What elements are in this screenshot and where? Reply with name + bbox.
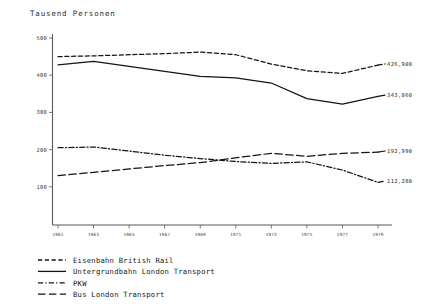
x-axis-tick-label: 1969: [195, 232, 206, 237]
series-end-leader: [378, 64, 385, 65]
series-end-value-label: 343,060: [387, 92, 413, 98]
y-axis-tick-group: 500400300200100: [36, 35, 52, 190]
y-axis-tick-label: 500: [36, 35, 47, 41]
series-end-value-label: 112,280: [387, 178, 413, 184]
line-chart: Tausend Personen 500400300200100 1961196…: [0, 0, 438, 308]
y-axis-tick-label: 300: [36, 109, 47, 115]
legend-item-label: PKW: [73, 279, 87, 288]
x-axis-tick-label: 1961: [52, 232, 63, 237]
series-group: [58, 52, 385, 182]
y-axis-tick-label: 200: [36, 147, 47, 153]
series-end-leader: [378, 181, 385, 182]
x-axis-tick-label: 1965: [124, 232, 135, 237]
x-axis-tick-label: 1971: [230, 232, 241, 237]
legend-item-label: Bus London Transport: [73, 290, 165, 299]
series-end-value-label: 426,900: [387, 61, 413, 67]
y-axis-tick-label: 100: [36, 184, 47, 190]
x-axis-tick-label: 1977: [337, 232, 348, 237]
x-axis-tick-label: 1967: [159, 232, 170, 237]
series-line: [58, 61, 378, 104]
x-axis-tick-label: 1973: [266, 232, 277, 237]
series-line: [58, 147, 378, 182]
y-axis-title: Tausend Personen: [30, 9, 116, 18]
chart-container: Tausend Personen 500400300200100 1961196…: [0, 0, 438, 308]
x-axis-tick-group: 1961196319651967196919711973197519771979: [52, 225, 383, 237]
x-axis-tick-label: 1963: [88, 232, 99, 237]
endpoint-label-group: 426,900343,060112,280192,990: [387, 61, 413, 184]
x-axis-tick-label: 1979: [372, 232, 383, 237]
series-line: [58, 152, 378, 175]
legend-item-label: Untergrundbahn London Transport: [73, 267, 215, 276]
y-axis-tick-label: 400: [36, 72, 47, 78]
x-axis-tick-label: 1975: [301, 232, 312, 237]
legend-item-label: Eisenbahn British Rail: [73, 256, 174, 265]
chart-legend: Eisenbahn British RailUntergrundbahn Lon…: [38, 256, 215, 299]
series-end-leader: [378, 151, 385, 152]
series-end-leader: [378, 95, 385, 96]
series-end-value-label: 192,990: [387, 148, 413, 154]
